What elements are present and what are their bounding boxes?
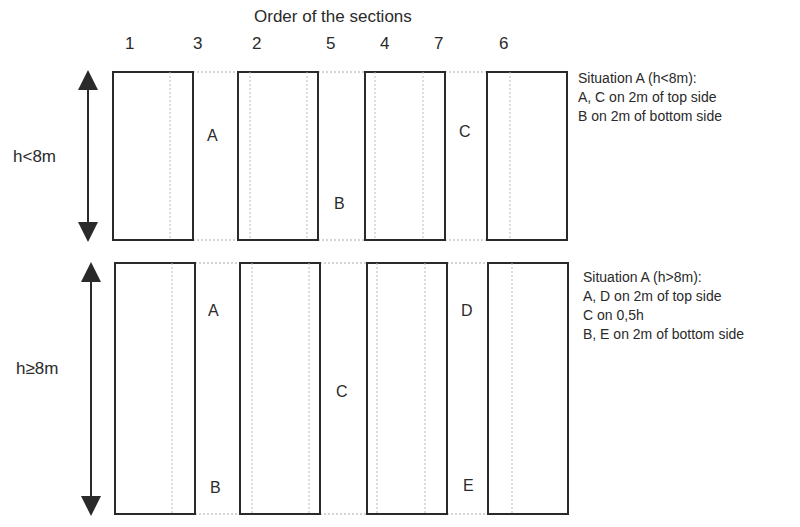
legend-heading: Situation A (h<8m):	[578, 69, 722, 88]
section-order-label: 2	[252, 34, 261, 54]
section-order-label: 5	[326, 34, 335, 54]
top-row-panels	[88, 72, 567, 240]
point-label-e: E	[463, 477, 474, 495]
legend-line: B on 2m of bottom side	[578, 107, 722, 126]
legend-line: B, E on 2m of bottom side	[583, 325, 744, 344]
point-label-a: A	[207, 127, 218, 145]
legend-bottom: Situation A (h>8m): A, D on 2m of top si…	[583, 268, 744, 344]
legend-line: A, C on 2m of top side	[578, 88, 722, 107]
point-label-c: C	[336, 383, 348, 401]
section-order-label: 6	[499, 34, 508, 54]
height-label-top: h<8m	[13, 147, 56, 167]
height-label-bottom: h≥8m	[16, 359, 58, 379]
panel-bottom-1	[115, 263, 195, 514]
legend-top: Situation A (h<8m): A, C on 2m of top si…	[578, 69, 722, 126]
point-label-b: B	[210, 479, 221, 497]
panel-top-4	[487, 72, 567, 240]
legend-heading: Situation A (h>8m):	[583, 268, 744, 287]
point-label-c: C	[459, 123, 471, 141]
panel-top-3	[365, 72, 445, 240]
diagram-title: Order of the sections	[254, 7, 412, 27]
legend-line: A, D on 2m of top side	[583, 287, 744, 306]
panel-bottom-3	[367, 263, 447, 514]
section-order-label: 4	[380, 34, 389, 54]
section-order-label: 1	[125, 34, 134, 54]
point-label-a: A	[208, 302, 219, 320]
bottom-row-panels	[91, 263, 568, 514]
section-order-label: 7	[434, 34, 443, 54]
panel-bottom-4	[488, 263, 568, 514]
point-label-d: D	[461, 302, 473, 320]
legend-line: C on 0,5h	[583, 306, 744, 325]
section-order-label: 3	[193, 34, 202, 54]
panel-top-1	[113, 72, 193, 240]
point-label-b: B	[334, 195, 345, 213]
